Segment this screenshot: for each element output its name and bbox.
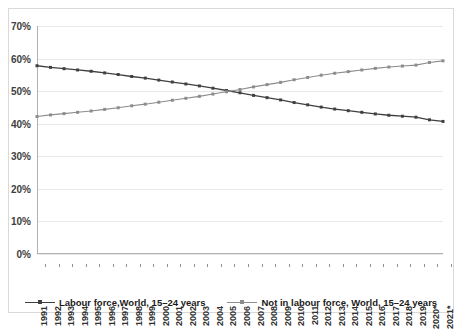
data-point-marker	[36, 115, 39, 118]
x-axis-tick-mark	[451, 264, 452, 267]
legend-item[interactable]: Not in labour force, World, 15–24 years	[227, 297, 437, 308]
x-axis-tick-mark	[356, 264, 357, 267]
data-point-marker	[401, 115, 404, 118]
data-point-marker	[360, 68, 363, 71]
data-point-marker	[117, 73, 120, 76]
data-point-marker	[306, 103, 309, 106]
data-point-marker	[401, 65, 404, 68]
x-axis-tick-mark	[316, 264, 317, 267]
legend-item[interactable]: Labour force,World, 15–24 years	[25, 297, 206, 308]
data-point-marker	[90, 70, 93, 73]
x-axis-tick-label: 2018	[405, 306, 414, 326]
legend-label: Labour force,World, 15–24 years	[59, 297, 206, 308]
x-axis-tick-label: 2014	[351, 306, 360, 326]
data-point-marker	[130, 75, 133, 78]
data-point-marker	[36, 64, 39, 67]
data-point-marker	[333, 108, 336, 111]
x-axis-tick-mark	[167, 264, 168, 267]
x-axis-tick-mark	[180, 264, 181, 267]
x-axis-tick-mark	[370, 264, 371, 267]
chart-container: 70%60%50%40%30%20%10%0% 1991199219931994…	[8, 8, 454, 313]
x-axis-tick-label: 2013	[338, 306, 347, 326]
x-axis-tick-label: 1993	[67, 306, 76, 326]
data-point-marker	[144, 77, 147, 80]
x-axis-tick-label: 2004	[216, 306, 225, 326]
x-axis-tick-label: 1997	[121, 306, 130, 326]
data-point-marker	[387, 114, 390, 117]
data-point-marker	[266, 96, 269, 99]
x-axis-tick-label: 2009	[284, 306, 293, 326]
x-axis-tick-mark	[302, 264, 303, 267]
data-point-marker	[184, 82, 187, 85]
data-point-marker	[333, 72, 336, 75]
data-point-marker	[428, 61, 431, 64]
x-axis-tick-mark	[424, 264, 425, 267]
data-point-marker	[387, 66, 390, 69]
data-point-marker	[306, 76, 309, 79]
x-axis-tick-label: 2007	[257, 306, 266, 326]
data-point-marker	[117, 106, 120, 109]
x-axis-tick-label: 2010	[297, 306, 306, 326]
data-point-marker	[374, 112, 377, 115]
data-point-marker	[239, 91, 242, 94]
x-axis-tick-mark	[221, 264, 222, 267]
data-point-marker	[103, 108, 106, 111]
data-point-marker	[414, 116, 417, 119]
data-point-marker	[442, 59, 445, 62]
x-axis-tick-label: 2019	[419, 306, 428, 326]
data-point-marker	[211, 93, 214, 96]
data-point-marker	[374, 67, 377, 70]
x-axis-tick-mark	[437, 264, 438, 267]
legend-swatch-icon	[227, 299, 257, 307]
data-point-marker	[63, 67, 66, 70]
data-point-marker	[293, 101, 296, 104]
x-axis-tick-mark	[234, 264, 235, 267]
x-axis-tick-label: 2011	[311, 306, 320, 326]
y-axis-tick-label: 70%	[11, 21, 31, 32]
y-axis-tick-label: 10%	[11, 216, 31, 227]
x-axis-tick-label: 1996	[108, 306, 117, 326]
x-axis-tick-mark	[397, 264, 398, 267]
series-lines	[37, 26, 443, 254]
data-point-marker	[198, 84, 201, 87]
x-axis-tick-mark	[275, 264, 276, 267]
x-axis-tick-mark	[410, 264, 411, 267]
legend-swatch-icon	[25, 299, 55, 307]
data-point-marker	[171, 99, 174, 102]
x-axis-tick-mark	[72, 264, 73, 267]
x-axis-tick-label: 1995	[94, 306, 103, 326]
x-axis-tick-mark	[140, 264, 141, 267]
data-point-marker	[239, 88, 242, 91]
x-axis-tick-label: 2021*	[446, 306, 455, 330]
y-axis-tick-label: 30%	[11, 151, 31, 162]
x-axis-tick-label: 2000	[162, 306, 171, 326]
data-point-marker	[279, 81, 282, 84]
x-axis-tick-label: 2015	[365, 306, 374, 326]
y-axis-tick-label: 0%	[17, 249, 31, 260]
x-axis-tick-mark	[126, 264, 127, 267]
plot-area: 70%60%50%40%30%20%10%0%	[37, 26, 443, 254]
data-point-marker	[130, 104, 133, 107]
gridline	[37, 254, 443, 255]
data-point-marker	[103, 71, 106, 74]
x-axis-tick-mark	[86, 264, 87, 267]
data-point-marker	[293, 78, 296, 81]
x-axis-tick-mark	[248, 264, 249, 267]
data-point-marker	[184, 97, 187, 100]
data-point-marker	[157, 101, 160, 104]
data-point-marker	[225, 90, 228, 93]
data-point-marker	[63, 112, 66, 115]
x-axis-tick-label: 1999	[148, 306, 157, 326]
x-axis-tick-label: 2020*	[432, 306, 441, 330]
data-point-marker	[211, 87, 214, 90]
x-axis-tick-label: 2001	[175, 306, 184, 326]
x-axis-tick-label: 2008	[270, 306, 279, 326]
data-point-marker	[252, 85, 255, 88]
data-point-marker	[414, 64, 417, 67]
data-point-marker	[90, 110, 93, 113]
x-axis-tick-mark	[113, 264, 114, 267]
data-point-marker	[320, 106, 323, 109]
x-axis-tick-mark	[262, 264, 263, 267]
x-axis-tick-label: 2012	[324, 306, 333, 326]
data-point-marker	[320, 74, 323, 77]
